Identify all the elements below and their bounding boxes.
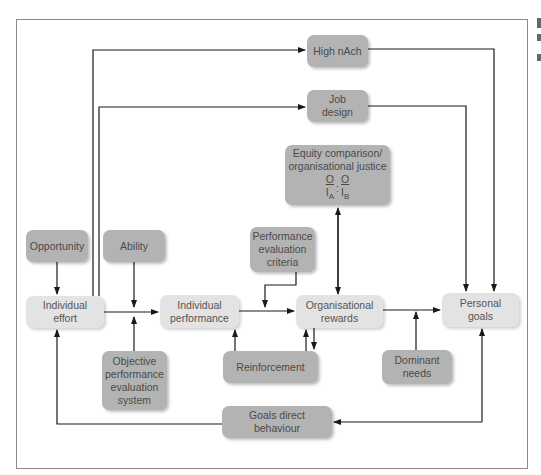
- node-label-line: evaluation: [259, 243, 307, 256]
- node-label-line: Dominant: [395, 354, 440, 367]
- ratio-a-subscript: A: [329, 192, 334, 201]
- node-reinforcement: Reinforcement: [223, 351, 318, 383]
- node-dominant-needs: Dominant needs: [382, 350, 452, 384]
- node-equity-comparison: Equity comparison/ organisational justic…: [285, 145, 390, 205]
- node-label-line: goals: [468, 310, 493, 323]
- ratio-b-numerator: O: [341, 173, 349, 186]
- node-individual-performance: Individual performance: [160, 295, 239, 328]
- node-label: Reinforcement: [236, 361, 304, 374]
- node-label-line: Individual: [43, 299, 87, 312]
- node-personal-goals: Personal goals: [442, 293, 519, 327]
- node-label-line: needs: [403, 367, 432, 380]
- ratio-a: O IA: [326, 173, 334, 203]
- node-organisational-rewards: Organisational rewards: [296, 295, 383, 328]
- node-goals-direct-behaviour: Goals direct behaviour: [222, 406, 332, 438]
- cropped-text-mark: [537, 54, 541, 61]
- ratio-separator: :: [336, 182, 339, 195]
- node-label: Goals direct behaviour: [225, 409, 329, 435]
- node-label-line: Objective: [113, 355, 157, 368]
- node-label-line: rewards: [321, 312, 358, 325]
- cropped-text-mark: [537, 34, 541, 41]
- node-opportunity: Opportunity: [26, 230, 88, 262]
- node-individual-effort: Individual effort: [26, 296, 104, 328]
- node-label-line: organisational justice: [288, 160, 386, 173]
- node-label-line: Organisational: [306, 299, 374, 312]
- cropped-text-mark: [537, 18, 541, 28]
- node-label: High nAch: [313, 45, 361, 58]
- node-ability: Ability: [103, 230, 165, 262]
- node-label-line: Performance: [252, 230, 312, 243]
- node-label-line: Equity comparison/: [293, 147, 382, 160]
- node-high-nach: High nAch: [307, 35, 368, 67]
- node-label-line: Job: [329, 93, 346, 106]
- ratio-a-numerator: O: [326, 173, 334, 186]
- node-job-design: Job design: [307, 90, 368, 122]
- ratio-b: O IB: [341, 173, 349, 203]
- node-label-line: design: [322, 106, 353, 119]
- equity-ratio: O IA : O IB: [324, 173, 351, 203]
- node-label-line: Individual: [177, 299, 221, 312]
- node-performance-evaluation-criteria: Performance evaluation criteria: [250, 227, 315, 272]
- node-label-line: criteria: [267, 256, 299, 269]
- node-objective-performance-evaluation-system: Objective performance evaluation system: [102, 351, 167, 410]
- node-label-line: evaluation: [111, 381, 159, 394]
- node-label-line: system: [118, 394, 151, 407]
- node-label-line: effort: [53, 312, 77, 325]
- node-label: Ability: [120, 240, 148, 253]
- node-label-line: performance: [105, 368, 164, 381]
- ratio-b-subscript: B: [344, 192, 349, 201]
- node-label-line: Personal: [460, 297, 501, 310]
- node-label: Opportunity: [30, 240, 84, 253]
- node-label-line: performance: [170, 312, 229, 325]
